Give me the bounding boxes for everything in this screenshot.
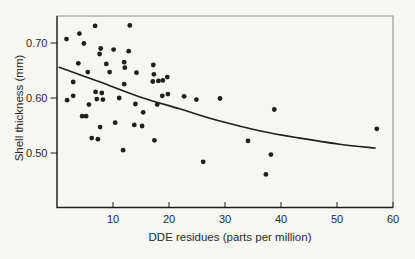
data-point	[77, 31, 82, 36]
data-point	[93, 24, 98, 29]
data-point	[166, 92, 171, 97]
y-tick-label: 0.70	[26, 37, 47, 49]
data-point	[71, 93, 76, 98]
y-axis-label: Shell thickness (mm)	[13, 54, 25, 161]
plot-frame	[57, 16, 393, 208]
data-point	[151, 63, 156, 68]
data-point	[194, 97, 199, 102]
data-point	[122, 60, 127, 65]
data-point	[111, 47, 116, 52]
data-point	[65, 98, 70, 103]
data-point	[98, 46, 103, 51]
x-tick-label: 30	[219, 213, 231, 225]
data-point	[107, 70, 112, 75]
data-point	[126, 49, 131, 54]
data-point	[160, 93, 165, 98]
data-point	[134, 70, 139, 75]
data-point	[64, 37, 69, 42]
x-axis-label: DDE residues (parts per million)	[149, 231, 312, 243]
scatter-chart: 1020304050600.700.600.50 DDE residues (p…	[0, 0, 415, 259]
data-point	[122, 65, 127, 70]
data-point	[160, 78, 165, 83]
data-point	[117, 96, 122, 101]
y-tick-label: 0.60	[26, 92, 47, 104]
x-tick-label: 50	[331, 213, 343, 225]
trend-curve	[59, 67, 375, 148]
plot-border	[57, 16, 393, 208]
data-point	[71, 80, 76, 85]
data-points	[64, 23, 379, 177]
data-point	[82, 41, 87, 46]
x-tick-label: 10	[107, 213, 119, 225]
data-point	[132, 123, 137, 128]
data-point	[121, 148, 126, 153]
x-tick-label: 40	[275, 213, 287, 225]
axis-ticks: 1020304050600.700.600.50	[26, 37, 399, 225]
axis-lines	[57, 16, 393, 208]
y-tick-label: 0.50	[26, 147, 47, 159]
data-point	[201, 159, 206, 164]
data-point	[165, 75, 170, 80]
x-tick-label: 60	[387, 213, 399, 225]
data-point	[156, 79, 161, 84]
data-point	[122, 82, 127, 87]
data-point	[127, 23, 132, 28]
data-point	[113, 120, 118, 125]
data-point	[89, 136, 94, 141]
data-point	[264, 172, 269, 177]
data-point	[218, 96, 223, 101]
data-point	[76, 61, 81, 66]
data-point	[246, 139, 251, 144]
data-point	[133, 102, 138, 107]
data-point	[155, 102, 160, 107]
data-point	[84, 114, 89, 119]
data-point	[182, 94, 187, 99]
data-point	[140, 124, 145, 129]
data-point	[98, 125, 103, 130]
data-point	[150, 79, 155, 84]
data-point	[272, 107, 277, 112]
data-point	[93, 90, 98, 95]
data-point	[97, 52, 102, 57]
data-point	[269, 152, 274, 157]
data-point	[152, 138, 157, 143]
data-point	[104, 62, 109, 67]
data-point	[94, 97, 99, 102]
data-point	[99, 91, 104, 96]
data-point	[85, 70, 90, 75]
data-point	[141, 110, 146, 115]
data-point	[101, 97, 106, 102]
data-point	[374, 126, 379, 131]
scatter-plot-figure: 1020304050600.700.600.50 DDE residues (p…	[0, 0, 415, 259]
x-tick-label: 20	[163, 213, 175, 225]
data-point	[96, 137, 101, 142]
data-point	[87, 102, 92, 107]
data-point	[152, 72, 157, 77]
